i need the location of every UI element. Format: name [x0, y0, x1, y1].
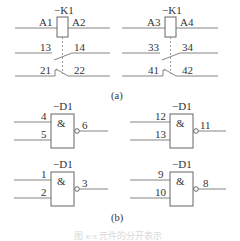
no-contact-blade	[162, 53, 180, 60]
gate-output-pin: 8	[203, 177, 209, 189]
gate-output-pin: 11	[200, 119, 211, 131]
gate-input-1-pin: 12	[155, 110, 166, 122]
relay-designation: −K1	[162, 4, 182, 16]
nc-contact-terminal-left: 41	[148, 64, 159, 76]
gate-input-1-pin: 9	[158, 168, 164, 180]
gate-output-pin: 6	[82, 119, 88, 131]
diagram-canvas: −K1 A1 A2 13 14 21 22 −K1 A3 A4 33 3	[0, 0, 240, 241]
relay-a-left: −K1 A1 A2 13 14 21 22	[15, 4, 110, 76]
figure-caption: 图 x-x 元件的分开表示	[74, 230, 163, 241]
gate-input-2-pin: 2	[41, 186, 47, 198]
nc-contact-blade	[164, 69, 176, 76]
nc-contact-terminal-right: 22	[74, 64, 85, 76]
nc-contact-terminal-left: 21	[40, 64, 51, 76]
part-b-label: (b)	[111, 212, 124, 224]
gate-input-1-pin: 4	[41, 110, 47, 122]
no-contact-terminal-left: 13	[40, 41, 52, 53]
gate-input-2-pin: 13	[155, 128, 167, 140]
relay-designation: −K1	[54, 4, 74, 16]
gate-designation: −D1	[53, 100, 73, 112]
gate-designation: −D1	[172, 100, 192, 112]
nand-gate-2: −D1 & 12 13 11	[130, 100, 226, 148]
part-a-label: (a)	[111, 90, 123, 102]
coil-terminal-right: A2	[72, 16, 85, 28]
inversion-bubble	[194, 129, 199, 134]
inversion-bubble	[75, 129, 80, 134]
gate-input-1-pin: 1	[41, 168, 47, 180]
no-contact-terminal-right: 34	[182, 41, 194, 53]
gate-output-pin: 3	[82, 177, 88, 189]
no-contact-terminal-right: 14	[74, 41, 86, 53]
gate-designation: −D1	[172, 158, 192, 170]
no-contact-blade	[54, 53, 72, 60]
gate-symbol: &	[176, 175, 185, 187]
gate-symbol: &	[176, 117, 185, 129]
coil-terminal-left: A3	[147, 16, 161, 28]
inversion-bubble	[75, 187, 80, 192]
gate-designation: −D1	[53, 158, 73, 170]
inversion-bubble	[194, 187, 199, 192]
coil-terminal-left: A1	[39, 16, 52, 28]
relay-coil	[57, 17, 68, 37]
gate-symbol: &	[57, 117, 66, 129]
nand-gate-4: −D1 & 9 10 8	[130, 158, 226, 206]
gate-symbol: &	[57, 175, 66, 187]
no-contact-terminal-left: 33	[148, 41, 160, 53]
relay-a-right: −K1 A3 A4 33 34 41 42	[122, 4, 218, 76]
coil-terminal-right: A4	[180, 16, 194, 28]
gate-input-2-pin: 10	[155, 186, 167, 198]
nand-gate-1: −D1 & 4 5 6	[14, 100, 108, 148]
gate-input-2-pin: 5	[41, 128, 47, 140]
relay-coil	[165, 17, 176, 37]
nc-contact-blade	[56, 69, 68, 76]
nand-gate-3: −D1 & 1 2 3	[14, 158, 108, 206]
nc-contact-terminal-right: 42	[182, 64, 193, 76]
